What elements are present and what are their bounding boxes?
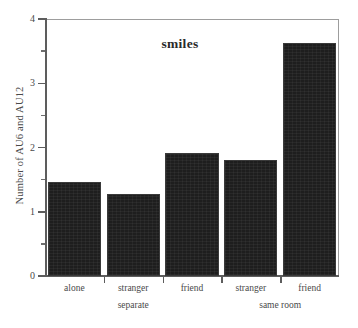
bar xyxy=(283,43,336,276)
y-tick-label: 3 xyxy=(30,78,35,88)
chart-title-text: smiles xyxy=(161,36,198,51)
x-tick xyxy=(280,277,282,283)
x-category-label: friend xyxy=(298,283,321,293)
y-axis-label-text: Number of AU6 and AU12 xyxy=(14,86,25,204)
x-group-label: same room xyxy=(259,300,301,310)
x-category-label: alone xyxy=(64,283,85,293)
x-category-label: friend xyxy=(181,283,204,293)
y-tick-4: 4 xyxy=(38,18,45,20)
chart-title: smiles xyxy=(0,36,358,52)
x-tick xyxy=(163,277,165,283)
bar xyxy=(224,160,277,276)
y-tick-label: 0 xyxy=(30,271,35,281)
y-tick-label: 2 xyxy=(30,143,35,153)
bar xyxy=(165,153,218,276)
bar xyxy=(48,182,101,276)
bar xyxy=(107,194,160,276)
y-tick-label: 4 xyxy=(30,14,35,24)
x-category-label: stranger xyxy=(118,283,149,293)
bar-chart-figure: Number of AU6 and AU12 43210 smiles alon… xyxy=(0,0,358,328)
y-tick-2: 2 xyxy=(38,147,45,149)
y-tick-0: 0 xyxy=(38,275,45,277)
y-tick-3: 3 xyxy=(38,83,45,85)
x-tick xyxy=(104,277,106,283)
y-tick-label: 1 xyxy=(30,207,35,217)
x-category-label: stranger xyxy=(235,283,266,293)
x-tick xyxy=(221,277,223,283)
y-tick-1: 1 xyxy=(38,211,45,213)
x-group-label: separate xyxy=(118,300,149,310)
bars-container xyxy=(45,19,339,276)
